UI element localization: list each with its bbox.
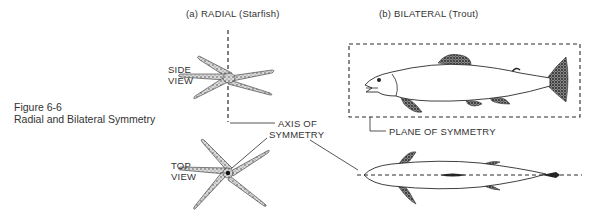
radial-panel-heading: (a) RADIAL (Starfish) xyxy=(186,8,280,19)
axis-label-line1: AXIS OF xyxy=(278,118,324,129)
top-view-label-line2: VIEW xyxy=(171,171,196,182)
axis-label-line2: SYMMETRY xyxy=(269,129,324,140)
trout-top-view xyxy=(357,152,582,204)
side-view-label-line2: VIEW xyxy=(168,75,193,86)
side-view-label-line1: SIDE xyxy=(168,64,193,75)
plane-of-symmetry-label: PLANE OF SYMMETRY xyxy=(389,126,496,137)
top-view-label-line1: TOP xyxy=(171,160,196,171)
axis-of-symmetry-label: AXIS OF SYMMETRY xyxy=(278,118,324,140)
figure-title: Radial and Bilateral Symmetry xyxy=(14,113,155,125)
bilateral-panel-heading: (b) BILATERAL (Trout) xyxy=(379,8,478,19)
figure-number: Figure 6-6 xyxy=(14,101,155,113)
trout-side-view xyxy=(365,54,568,112)
side-view-label: SIDE VIEW xyxy=(168,64,193,86)
figure-caption: Figure 6-6 Radial and Bilateral Symmetry xyxy=(14,101,155,125)
top-view-label: TOP VIEW xyxy=(171,160,196,182)
axis-pointer-lines xyxy=(232,138,358,170)
